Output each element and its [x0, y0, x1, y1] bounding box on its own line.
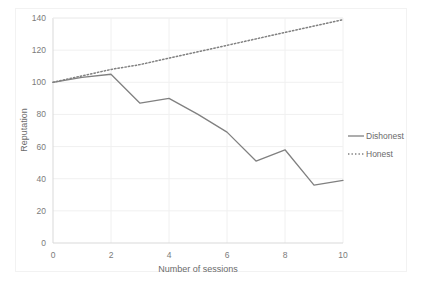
- x-tick-label: 4: [167, 250, 172, 260]
- x-axis-tick-labels: 0246810: [51, 250, 348, 260]
- chart-figure: 020406080100120140 0246810 DishonestHone…: [0, 0, 422, 288]
- legend-label-dishonest: Dishonest: [366, 131, 404, 141]
- x-tick-label: 10: [338, 250, 348, 260]
- y-tick-label: 60: [37, 142, 47, 152]
- y-tick-label: 40: [37, 174, 47, 184]
- y-tick-label: 120: [32, 45, 46, 55]
- x-tick-label: 6: [225, 250, 230, 260]
- x-tick-label: 0: [51, 250, 56, 260]
- y-tick-label: 140: [32, 13, 46, 23]
- data-series-group: [53, 20, 343, 186]
- y-tick-label: 20: [37, 206, 47, 216]
- x-tick-label: 8: [283, 250, 288, 260]
- x-axis-title: Number of sessions: [158, 264, 238, 274]
- x-tick-label: 2: [109, 250, 114, 260]
- y-tick-label: 80: [37, 109, 47, 119]
- line-chart: 020406080100120140 0246810 DishonestHone…: [0, 0, 422, 288]
- series-line-honest: [53, 20, 343, 83]
- y-axis-tick-labels: 020406080100120140: [32, 13, 46, 248]
- legend-label-honest: Honest: [366, 149, 394, 159]
- series-line-dishonest: [53, 74, 343, 185]
- y-tick-label: 100: [32, 77, 46, 87]
- y-tick-label: 0: [41, 238, 46, 248]
- chart-legend: DishonestHonest: [348, 131, 404, 159]
- y-axis-title: Reputation: [19, 108, 29, 152]
